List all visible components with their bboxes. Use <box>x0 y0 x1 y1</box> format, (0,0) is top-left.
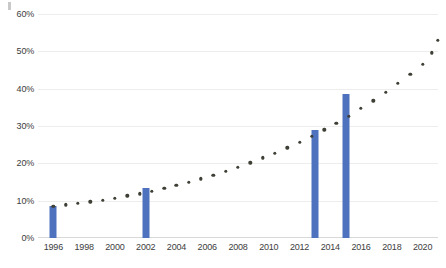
trend-line-dot <box>322 128 325 131</box>
trend-line-dot <box>273 151 276 154</box>
y-axis-tick-label: 60% <box>0 9 34 19</box>
trend-line-dot <box>430 51 433 54</box>
trend-line-dot <box>409 72 412 75</box>
trend-line-dot <box>175 184 178 187</box>
x-axis-tick-label: 2014 <box>321 242 340 252</box>
gridline <box>38 163 438 164</box>
y-axis-tick-label: 10% <box>0 196 34 206</box>
x-axis-tick-label: 2016 <box>351 242 370 252</box>
gridline <box>38 51 438 52</box>
trend-line-dot <box>286 146 289 149</box>
trend-line-dot <box>421 63 424 66</box>
x-axis-tick-label: 2018 <box>382 242 401 252</box>
trend-line-dot <box>199 177 202 180</box>
gridline <box>38 14 438 15</box>
x-axis-line <box>38 237 438 238</box>
trend-line-dot <box>396 82 399 85</box>
x-axis-tick-label: 2000 <box>105 242 124 252</box>
trend-line-dot <box>64 203 67 206</box>
trend-line-dot <box>335 121 338 124</box>
x-axis-tick-label: 2008 <box>228 242 247 252</box>
y-axis-tick-label: 30% <box>0 121 34 131</box>
trend-line-dot <box>224 169 227 172</box>
trend-line-dot <box>359 107 362 110</box>
bar <box>311 130 318 238</box>
y-axis-tick-label: 40% <box>0 84 34 94</box>
y-axis-tick-label: 20% <box>0 158 34 168</box>
trend-line-dot <box>372 99 375 102</box>
trend-line-dot <box>212 173 215 176</box>
gridline <box>38 201 438 202</box>
x-axis-tick-label: 2012 <box>290 242 309 252</box>
x-axis-tick-label: 2004 <box>167 242 186 252</box>
trend-line-dot <box>150 189 153 192</box>
trend-line-dot <box>126 194 129 197</box>
x-axis-tick-label: 2010 <box>259 242 278 252</box>
x-axis-tick-label: 1996 <box>44 242 63 252</box>
trend-line-dot <box>138 192 141 195</box>
x-axis-tick-label: 2006 <box>198 242 217 252</box>
gridline <box>38 126 438 127</box>
trend-line-dot <box>347 114 350 117</box>
x-axis-tick-label: 2020 <box>413 242 432 252</box>
trend-line-dot <box>113 196 116 199</box>
trend-line-dot <box>261 156 264 159</box>
y-axis-tick-label: 50% <box>0 46 34 56</box>
trend-line-dot <box>236 165 239 168</box>
trend-line-dot <box>436 38 439 41</box>
trend-line-dot <box>298 140 301 143</box>
x-axis-tick-label: 2002 <box>136 242 155 252</box>
trend-line-dot <box>89 200 92 203</box>
x-axis-tick-label: 1998 <box>75 242 94 252</box>
y-axis-labels: 0%10%20%30%40%50%60% <box>0 14 34 238</box>
y-axis-tick-label: 0% <box>0 233 34 243</box>
bar <box>142 188 149 238</box>
chart-container: 0%10%20%30%40%50%60% 1996199820002002200… <box>0 0 446 268</box>
plot-area <box>38 14 438 238</box>
trend-line-dot <box>187 180 190 183</box>
gridline <box>38 89 438 90</box>
bar <box>50 206 57 238</box>
trend-line-dot <box>384 91 387 94</box>
trend-line-dot <box>76 202 79 205</box>
trend-line-dot <box>162 187 165 190</box>
